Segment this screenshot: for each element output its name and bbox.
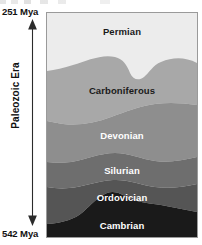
era-axis-title: Paleozoic Era [10, 31, 21, 161]
time-axis-column: 251 Mya Paleozoic Era 542 Mya [0, 6, 46, 239]
scan-artifact-strip [0, 0, 202, 4]
axis-bottom-label: 542 Mya [0, 228, 46, 239]
strata-column-chart: Permian Carboniferous Devonian Silurian … [46, 12, 198, 238]
band-label-carboniferous: Carboniferous [47, 85, 197, 96]
band-label-devonian: Devonian [47, 130, 197, 141]
band-label-permian: Permian [47, 26, 197, 37]
double-headed-arrow-icon [27, 19, 38, 226]
band-label-ordovician: Ordovician [47, 192, 197, 203]
band-label-cambrian: Cambrian [47, 220, 197, 231]
paleozoic-era-stratigraphic-figure: 251 Mya Paleozoic Era 542 Mya Permian [0, 0, 202, 245]
axis-top-label: 251 Mya [0, 6, 46, 17]
band-label-silurian: Silurian [47, 165, 197, 176]
band-label-layer: Permian Carboniferous Devonian Silurian … [47, 13, 197, 237]
